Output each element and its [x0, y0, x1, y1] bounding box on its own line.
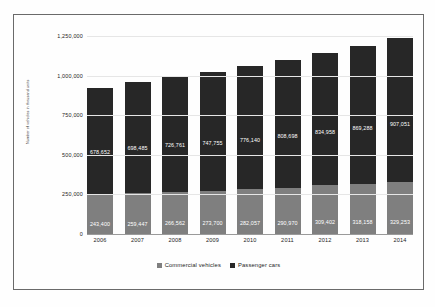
bar-column[interactable]: 808,698290,970: [275, 36, 301, 234]
gridline: [87, 36, 413, 37]
bar-value-label: 678,652: [87, 149, 113, 155]
legend-label: Commercial vehicles: [165, 262, 221, 268]
x-axis-tick-labels: 200620072008200920102011201220132014: [87, 237, 413, 243]
bar-segment-commercial-vehicles[interactable]: 259,447: [125, 193, 151, 234]
x-axis-tick-label: 2006: [87, 237, 113, 243]
bar-value-label: 808,698: [275, 133, 301, 139]
legend-color-swatch: [157, 263, 162, 268]
bar-segment-passenger-cars[interactable]: 808,698: [275, 60, 301, 188]
bar-segment-commercial-vehicles[interactable]: 273,700: [200, 191, 226, 234]
bar-column[interactable]: 678,652243,400: [87, 36, 113, 234]
bar-segment-passenger-cars[interactable]: 678,652: [87, 88, 113, 195]
bar-value-label: 834,958: [312, 129, 338, 135]
bar-segment-passenger-cars[interactable]: 834,958: [312, 53, 338, 185]
bar-segment-commercial-vehicles[interactable]: 282,057: [237, 189, 263, 234]
x-axis-tick-label: 2011: [275, 237, 301, 243]
bar-group: 678,652243,400698,485259,447726,761266,5…: [87, 36, 413, 234]
bar-segment-passenger-cars[interactable]: 907,051: [387, 38, 413, 182]
y-axis-tick-labels: 0250,000500,000750,0001,000,0001,250,000: [35, 36, 83, 234]
bar-value-label: 776,140: [237, 137, 263, 143]
chart-legend: Commercial vehiclesPassenger cars: [13, 262, 424, 268]
bar-column[interactable]: 726,761266,562: [162, 36, 188, 234]
y-axis-tick-label: 500,000: [62, 152, 83, 158]
x-axis-tick-label: 2008: [162, 237, 188, 243]
legend-label: Passenger cars: [238, 262, 280, 268]
gridline: [87, 115, 413, 116]
y-axis-tick-label: 0: [80, 231, 83, 237]
bar-column[interactable]: 776,140282,057: [237, 36, 263, 234]
bar-segment-commercial-vehicles[interactable]: 329,253: [387, 182, 413, 234]
plot-area: 678,652243,400698,485259,447726,761266,5…: [87, 36, 413, 234]
bar-value-label: 907,051: [387, 121, 413, 127]
bar-column[interactable]: 747,755273,700: [200, 36, 226, 234]
gridline: [87, 194, 413, 195]
y-axis-tick-label: 1,250,000: [57, 33, 83, 39]
bar-segment-commercial-vehicles[interactable]: 318,158: [350, 184, 376, 234]
y-axis-tick-label: 1,000,000: [57, 73, 83, 79]
bar-column[interactable]: 698,485259,447: [125, 36, 151, 234]
x-axis-tick-label: 2013: [350, 237, 376, 243]
bar-segment-passenger-cars[interactable]: 747,755: [200, 72, 226, 190]
y-axis-tick-label: 250,000: [62, 191, 83, 197]
gridline: [87, 76, 413, 77]
scanned-page-background: Number of vehicles in thousand units 025…: [0, 0, 435, 307]
legend-item[interactable]: Passenger cars: [230, 262, 280, 268]
x-axis-baseline: [87, 234, 413, 235]
x-axis-tick-label: 2012: [312, 237, 338, 243]
bar-value-label: 698,485: [125, 145, 151, 151]
bar-value-label: 329,253: [387, 219, 413, 225]
bar-value-label: 243,400: [87, 221, 113, 227]
bar-value-label: 259,447: [125, 221, 151, 227]
bar-value-label: 290,970: [275, 220, 301, 226]
bar-segment-passenger-cars[interactable]: 698,485: [125, 82, 151, 193]
bar-value-label: 282,057: [237, 220, 263, 226]
legend-item[interactable]: Commercial vehicles: [157, 262, 221, 268]
bar-column[interactable]: 907,051329,253: [387, 36, 413, 234]
legend-color-swatch: [230, 263, 235, 268]
bar-value-label: 309,402: [312, 219, 338, 225]
bar-value-label: 747,755: [200, 140, 226, 146]
x-axis-tick-label: 2007: [125, 237, 151, 243]
bar-segment-commercial-vehicles[interactable]: 309,402: [312, 185, 338, 234]
bar-column[interactable]: 834,958309,402: [312, 36, 338, 234]
x-axis-tick-label: 2014: [387, 237, 413, 243]
chart-container: Number of vehicles in thousand units 025…: [13, 14, 424, 290]
bar-value-label: 266,562: [162, 220, 188, 226]
bar-segment-passenger-cars[interactable]: 726,761: [162, 77, 188, 192]
x-axis-tick-label: 2010: [237, 237, 263, 243]
bar-segment-passenger-cars[interactable]: 776,140: [237, 66, 263, 189]
bar-value-label: 869,288: [350, 125, 376, 131]
gridline: [87, 155, 413, 156]
bar-value-label: 726,761: [162, 142, 188, 148]
y-axis-tick-label: 750,000: [62, 112, 83, 118]
bar-segment-commercial-vehicles[interactable]: 243,400: [87, 195, 113, 234]
bar-column[interactable]: 869,288318,158: [350, 36, 376, 234]
bar-value-label: 318,158: [350, 219, 376, 225]
x-axis-tick-label: 2009: [200, 237, 226, 243]
bar-segment-commercial-vehicles[interactable]: 266,562: [162, 192, 188, 234]
y-axis-title: Number of vehicles in thousand units: [27, 42, 31, 182]
bar-value-label: 273,700: [200, 220, 226, 226]
